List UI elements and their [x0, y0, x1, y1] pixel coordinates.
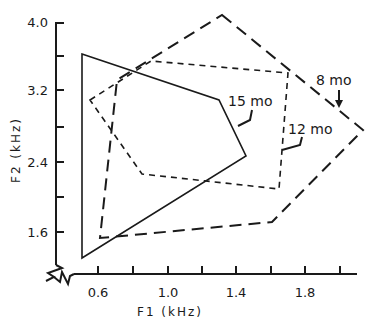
x-tick-label: 0.6 [88, 285, 109, 300]
y-axis-break-icon [46, 265, 62, 281]
series-label-15mo: 15 mo [228, 93, 272, 109]
y-axis [46, 22, 64, 281]
arrowhead-8mo-icon [335, 100, 343, 108]
x-axis-title: F1 (kHz) [137, 305, 203, 319]
pointer-15mo-icon [238, 110, 252, 126]
series-label-12mo: 12 mo [288, 121, 332, 137]
x-tick-label: 1.0 [158, 285, 179, 300]
vowel-formant-chart: 4.0 3.2 2.4 1.6 0.6 1.0 1.4 1.8 F1 (kHz)… [0, 0, 373, 331]
x-axis [54, 266, 357, 284]
series-12mo-polygon [90, 61, 288, 189]
series-label-8mo: 8 mo [316, 72, 352, 88]
pointer-12mo-icon [282, 137, 302, 150]
y-tick-label: 3.2 [27, 83, 48, 98]
y-tick-label: 4.0 [27, 15, 48, 30]
x-tick-label: 1.8 [295, 285, 316, 300]
x-axis-break-icon [54, 272, 74, 284]
y-axis-title: F2 (kHz) [9, 117, 23, 183]
y-tick-label: 2.4 [27, 155, 48, 170]
x-tick-label: 1.4 [226, 285, 247, 300]
y-tick-label: 1.6 [27, 225, 48, 240]
